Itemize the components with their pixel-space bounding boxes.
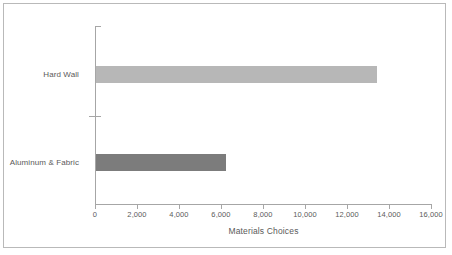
category-label-hard-wall: Hard Wall <box>43 70 79 79</box>
x-tick-14000 <box>389 204 390 209</box>
x-axis-title: Materials Choices <box>95 226 432 236</box>
x-tick-label-14000: 14,000 <box>377 210 401 219</box>
x-tick-10000 <box>305 204 306 209</box>
x-tick-8000 <box>263 204 264 209</box>
x-tick-12000 <box>347 204 348 209</box>
bar-hard-wall[interactable] <box>96 66 377 83</box>
x-tick-2000 <box>137 204 138 209</box>
x-tick-label-10000: 10,000 <box>293 210 317 219</box>
bar-aluminum-fabric[interactable] <box>96 154 226 171</box>
category-tick-top <box>95 26 101 27</box>
x-tick-label-8000: 8,000 <box>253 210 272 219</box>
chart-frame: 0 2,000 4,000 6,000 8,000 10,000 12,000 … <box>3 3 446 248</box>
x-tick-label-16000: 16,000 <box>419 210 443 219</box>
x-tick-16000 <box>431 204 432 209</box>
x-tick-4000 <box>179 204 180 209</box>
x-tick-0 <box>95 204 96 209</box>
x-tick-label-0: 0 <box>93 210 97 219</box>
category-label-aluminum-fabric: Aluminum & Fabric <box>10 158 79 167</box>
x-tick-label-4000: 4,000 <box>169 210 188 219</box>
category-tick-middle <box>89 116 101 117</box>
x-tick-label-12000: 12,000 <box>335 210 359 219</box>
x-tick-label-2000: 2,000 <box>127 210 146 219</box>
chart-figure: 0 2,000 4,000 6,000 8,000 10,000 12,000 … <box>0 0 452 255</box>
x-tick-6000 <box>221 204 222 209</box>
x-tick-label-6000: 6,000 <box>211 210 230 219</box>
